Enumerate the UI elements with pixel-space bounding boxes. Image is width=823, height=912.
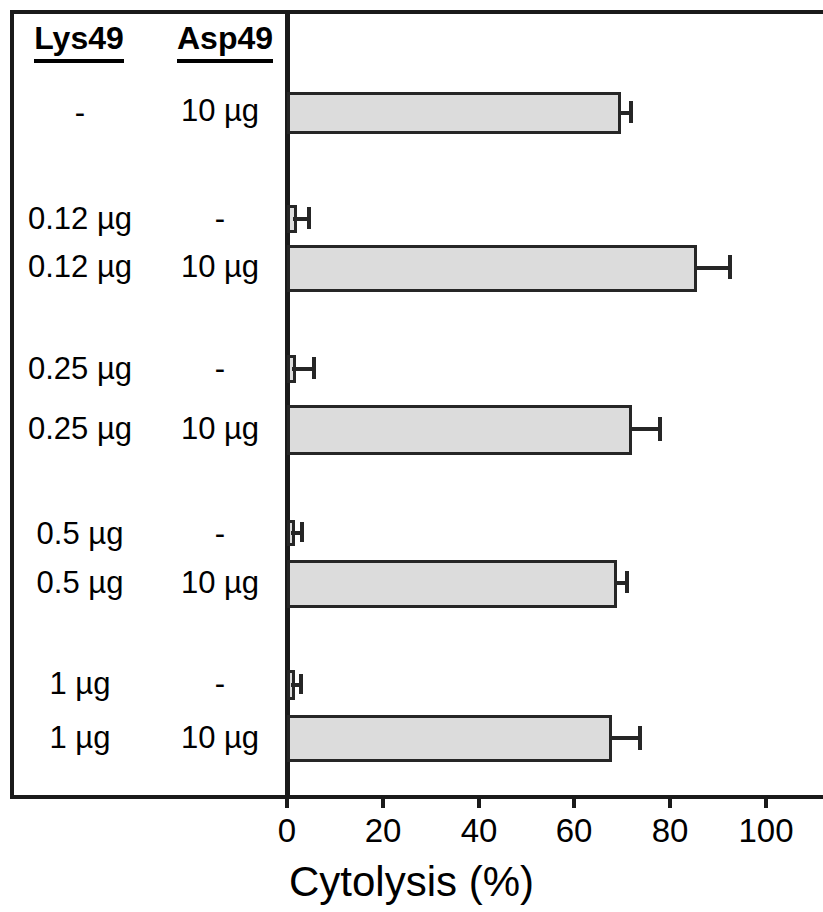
row-label-lys49-1: 0.12 µg — [6, 203, 154, 234]
xtick-label-0: 0 — [242, 812, 332, 850]
xtick-100 — [764, 795, 768, 808]
row-label-asp49-8: 10 µg — [152, 722, 288, 753]
column-header-lys49: Lys49 — [14, 20, 144, 63]
row-label-lys49-5: 0.5 µg — [6, 518, 154, 549]
xtick-label-80: 80 — [625, 812, 715, 850]
row-label-lys49-3: 0.25 µg — [6, 353, 154, 384]
row-label-asp49-5: - — [152, 518, 288, 549]
error-bar-line-row-3 — [292, 367, 314, 371]
bar-row-0 — [287, 92, 621, 134]
row-label-asp49-7: - — [152, 668, 288, 699]
column-header-asp49-label: Asp49 — [177, 20, 273, 63]
row-label-asp49-0: 10 µg — [152, 95, 288, 126]
error-bar-cap-row-6 — [625, 571, 629, 593]
xtick-label-40: 40 — [434, 812, 524, 850]
xtick-80 — [668, 795, 672, 808]
row-label-asp49-6: 10 µg — [152, 567, 288, 598]
error-bar-cap-row-1 — [307, 207, 311, 229]
xtick-label-100: 100 — [721, 812, 811, 850]
plot-frame-bottom-border — [10, 795, 823, 799]
xtick-0 — [285, 795, 289, 808]
column-header-asp49: Asp49 — [160, 20, 290, 63]
error-bar-line-row-8 — [610, 736, 641, 740]
row-label-lys49-2: 0.12 µg — [6, 251, 154, 282]
error-bar-cap-row-8 — [638, 726, 642, 750]
cytolysis-bar-chart-figure: Lys49 Asp49 - 10 µg 0.12 µg - 0.12 µg 10… — [0, 0, 823, 912]
error-bar-cap-row-2 — [728, 255, 732, 279]
bar-row-6 — [287, 560, 617, 608]
row-label-lys49-0: - — [6, 97, 154, 128]
row-label-lys49-4: 0.25 µg — [6, 413, 154, 444]
error-bar-line-row-4 — [630, 427, 661, 431]
row-label-asp49-1: - — [152, 203, 288, 234]
bar-row-4 — [287, 405, 632, 455]
xtick-label-60: 60 — [529, 812, 619, 850]
plot-frame-top-border — [10, 10, 823, 14]
xtick-40 — [477, 795, 481, 808]
row-label-lys49-6: 0.5 µg — [6, 567, 154, 598]
error-bar-cap-row-3 — [312, 357, 316, 379]
xtick-60 — [572, 795, 576, 808]
row-label-asp49-3: - — [152, 353, 288, 384]
row-label-lys49-7: 1 µg — [6, 668, 154, 699]
bar-row-2 — [287, 245, 697, 292]
xtick-label-20: 20 — [338, 812, 428, 850]
row-label-asp49-2: 10 µg — [152, 251, 288, 282]
error-bar-cap-row-4 — [658, 417, 662, 441]
xtick-20 — [381, 795, 385, 808]
error-bar-cap-row-5 — [300, 522, 304, 542]
row-label-lys49-8: 1 µg — [6, 722, 154, 753]
error-bar-line-row-2 — [695, 266, 731, 270]
error-bar-cap-row-7 — [299, 674, 303, 694]
row-label-asp49-4: 10 µg — [152, 413, 288, 444]
error-bar-cap-row-0 — [629, 101, 633, 123]
x-axis-title: Cytolysis (%) — [0, 858, 823, 906]
bar-row-8 — [287, 715, 612, 762]
column-header-lys49-label: Lys49 — [34, 20, 124, 63]
